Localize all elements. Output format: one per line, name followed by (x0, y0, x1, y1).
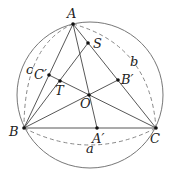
label-B-prime: B′ (120, 72, 134, 87)
label-b: b (130, 54, 138, 69)
label-c: c (26, 62, 34, 77)
label-A: A (66, 6, 76, 21)
label-C: C (150, 131, 160, 146)
label-C-prime: C′ (34, 67, 47, 82)
geometry-diagram: A S C′ T B′ O B A′ C a b c (0, 0, 174, 178)
label-a: a (86, 141, 94, 156)
label-S: S (93, 36, 102, 51)
label-O: O (80, 96, 91, 111)
label-B: B (8, 124, 19, 139)
label-T: T (55, 83, 65, 98)
